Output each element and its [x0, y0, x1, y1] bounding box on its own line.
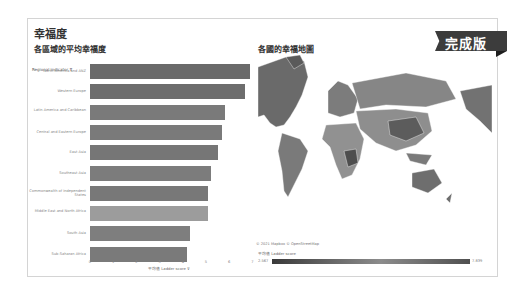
bar-label: Middle East and North Africa [28, 209, 86, 214]
bar[interactable] [90, 145, 218, 160]
dashboard-title: 幸福度 [34, 25, 67, 41]
bar[interactable] [90, 206, 208, 221]
bar-row[interactable]: Southeast Asia [28, 166, 268, 181]
x-axis-title[interactable]: 平均值 Ladder score ⊽ [148, 266, 190, 271]
bar[interactable] [90, 84, 245, 99]
x-tick: 2 [132, 260, 140, 264]
bar[interactable] [90, 226, 190, 241]
bar-label: North America and ANZ [28, 69, 86, 74]
russia [352, 73, 456, 109]
legend-min: 2.567 [258, 259, 268, 263]
x-tick: 0 [86, 260, 94, 264]
bar[interactable] [90, 186, 208, 201]
bar[interactable] [90, 105, 225, 120]
legend-max: 7.839 [472, 259, 482, 263]
bar-label: Latin America and Caribbean [28, 108, 86, 113]
bar-label: Commonwealth of Independent States [28, 189, 86, 198]
bar-row[interactable]: Western Europe [28, 84, 268, 99]
x-tick: 7 [248, 260, 256, 264]
map-title: 各國的幸福地圖 [258, 43, 314, 54]
bar-row[interactable]: South Asia [28, 226, 268, 241]
australia [412, 169, 442, 193]
bar-label: East Asia [28, 150, 86, 155]
bar-label: Sub-Saharan Africa [28, 252, 86, 257]
color-legend-bar [272, 259, 470, 264]
bar-chart-title: 各區域的平均幸福度 [34, 43, 106, 54]
bar-row[interactable]: Middle East and North Africa [28, 206, 268, 221]
bar[interactable] [90, 166, 211, 181]
bar-row[interactable]: North America and ANZ [28, 64, 268, 79]
badge-text: 完成版 [445, 33, 487, 52]
color-legend-title: 平均值 Ladder score [258, 251, 296, 256]
world-map[interactable] [256, 55, 492, 245]
x-tick: 1 [109, 260, 117, 264]
bar-label: South Asia [28, 231, 86, 236]
africa [322, 123, 364, 179]
dashboard-panel: 幸福度 各區域的平均幸福度 各國的幸福地圖 Regional indicator… [27, 18, 498, 277]
bar-row[interactable]: Latin America and Caribbean [28, 105, 268, 120]
south-america [278, 133, 308, 197]
x-tick: 6 [225, 260, 233, 264]
bar-label: Central and Eastern Europe [28, 130, 86, 135]
x-tick: 5 [202, 260, 210, 264]
bar[interactable] [90, 125, 222, 140]
bar-label: Southeast Asia [28, 171, 86, 176]
bar-label: Western Europe [28, 89, 86, 94]
bar[interactable] [90, 64, 250, 79]
bar-row[interactable]: East Asia [28, 145, 268, 160]
bar-row[interactable]: Central and Eastern Europe [28, 125, 268, 140]
bar-row[interactable]: Commonwealth of Independent States [28, 186, 268, 201]
x-tick: 3 [156, 260, 164, 264]
map-credit[interactable]: © 2021 Mapbox © OpenStreetMap [256, 242, 319, 246]
x-tick: 4 [179, 260, 187, 264]
ribbon-fold [496, 51, 507, 57]
north-america [258, 57, 308, 127]
